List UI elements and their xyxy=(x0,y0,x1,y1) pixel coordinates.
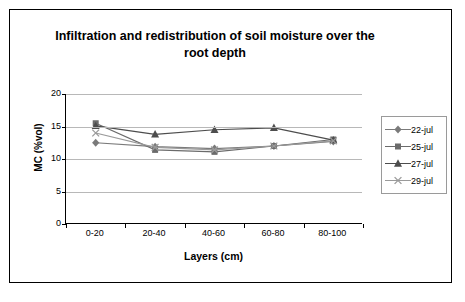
legend-item-22-jul: 22-jul xyxy=(385,121,443,138)
x-tick-label: 60-80 xyxy=(245,228,301,238)
legend-label: 29-jul xyxy=(411,176,433,186)
data-point-marker xyxy=(92,139,99,147)
y-tick-label: 15 xyxy=(41,122,61,131)
data-point-marker xyxy=(394,125,401,133)
gridline xyxy=(66,192,362,193)
y-tickmark xyxy=(62,159,66,160)
x-axis-tick-labels: 0-2020-4040-6060-8080-100 xyxy=(65,228,362,240)
x-tick-label: 40-60 xyxy=(186,228,242,238)
chart-legend: 22-jul25-jul27-jul29-jul xyxy=(381,116,447,194)
gridline xyxy=(66,159,362,160)
chart-title: Infiltration and redistribution of soil … xyxy=(50,28,380,62)
legend-label: 27-jul xyxy=(411,159,433,169)
legend-item-27-jul: 27-jul xyxy=(385,155,443,172)
legend-marker-icon xyxy=(385,157,411,171)
x-axis-title: Layers (cm) xyxy=(65,250,362,262)
legend-item-29-jul: 29-jul xyxy=(385,172,443,189)
legend-marker-icon xyxy=(385,140,411,154)
x-tick-label: 0-20 xyxy=(67,228,123,238)
y-tick-label: 5 xyxy=(41,187,61,196)
x-tick-label: 20-40 xyxy=(126,228,182,238)
series-27-jul xyxy=(92,122,338,144)
legend-label: 22-jul xyxy=(411,125,433,135)
y-tickmark xyxy=(62,94,66,95)
gridline xyxy=(66,94,362,95)
y-tick-label: 20 xyxy=(41,89,61,98)
x-tickmark xyxy=(363,224,364,228)
y-tick-label: 10 xyxy=(41,154,61,163)
y-axis-tick-labels: 05101520 xyxy=(38,94,61,224)
legend-marker-icon xyxy=(385,174,411,188)
y-tickmark xyxy=(62,192,66,193)
legend-item-25-jul: 25-jul xyxy=(385,138,443,155)
data-point-marker xyxy=(395,143,401,149)
gridline xyxy=(66,127,362,128)
plot-area xyxy=(65,94,362,224)
y-tickmark xyxy=(62,127,66,128)
legend-label: 25-jul xyxy=(411,142,433,152)
data-point-marker xyxy=(395,177,402,184)
legend-marker-icon xyxy=(385,123,411,137)
chart-frame: Infiltration and redistribution of soil … xyxy=(9,9,452,283)
data-point-marker xyxy=(394,159,402,166)
x-tick-label: 80-100 xyxy=(304,228,360,238)
y-tick-label: 0 xyxy=(41,219,61,228)
